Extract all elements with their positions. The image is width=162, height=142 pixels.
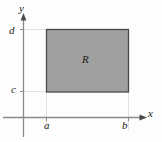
tick-label-b: b <box>122 120 128 131</box>
y-axis-label: y <box>19 3 24 14</box>
tick-label-d: d <box>9 25 15 36</box>
arrow-right-icon <box>140 115 148 121</box>
tick-label-a: a <box>44 120 50 131</box>
arrow-up-icon <box>21 13 27 21</box>
rectangle-region-diagram: y x d c a b R <box>0 0 162 142</box>
diagram-canvas <box>0 0 162 142</box>
tick-label-c: c <box>11 84 16 95</box>
x-axis-label: x <box>148 108 153 119</box>
region-label: R <box>82 54 89 65</box>
